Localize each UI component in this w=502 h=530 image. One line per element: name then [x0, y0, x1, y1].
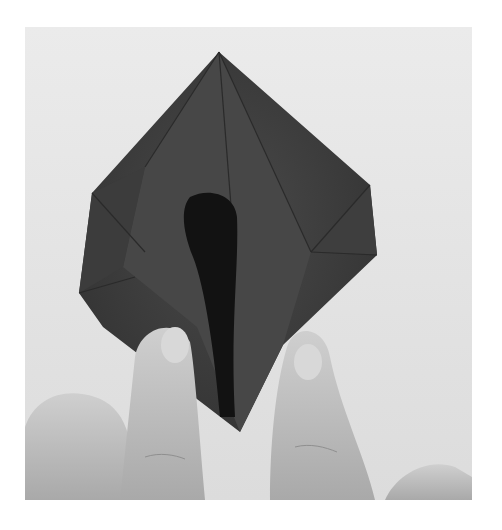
origami-photo [25, 27, 472, 500]
photo-illustration [25, 27, 472, 500]
